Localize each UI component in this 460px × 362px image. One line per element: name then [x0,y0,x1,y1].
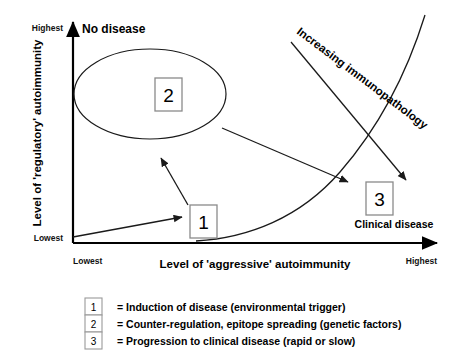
legend-item-text: = Progression to clinical disease (rapid… [117,335,355,347]
y-axis-high-tick: Highest [32,23,63,33]
legend: 1 = Induction of disease (environmental … [85,298,401,349]
no-disease-label: No disease [82,22,146,36]
legend-item: 3 = Progression to clinical disease (rap… [85,332,355,349]
x-axis-high-tick: Highest [406,256,437,266]
legend-item-text: = Counter-regulation, epitope spreading … [117,318,401,330]
no-disease-ellipse [74,49,226,139]
marker-box-3-label: 3 [374,189,385,210]
legend-item-number: 1 [91,302,97,313]
x-axis-low-tick: Lowest [73,256,102,266]
ellipse-to-box3-arrow [222,128,348,182]
clinical-disease-label: Clinical disease [355,218,434,230]
x-axis-title: Level of 'aggressive' autoimmunity [160,258,351,270]
legend-item: 2 = Counter-regulation, epitope spreadin… [85,315,401,332]
legend-item-text: = Induction of disease (environmental tr… [117,301,345,313]
marker-box-1: 1 [190,205,217,238]
marker-box-1-label: 1 [198,212,209,233]
origin-to-box1-arrow [73,217,182,237]
marker-box-3: 3 [366,182,393,215]
legend-item: 1 = Induction of disease (environmental … [85,298,345,315]
legend-item-number: 3 [91,336,97,347]
autoimmunity-diagram: Highest Lowest Lowest Highest Level of '… [0,0,460,362]
increasing-immunopathology-label: Increasing immunopathology [295,25,431,131]
marker-box-2: 2 [155,78,182,111]
y-axis-low-tick: Lowest [34,233,63,243]
marker-box-2-label: 2 [163,85,174,106]
legend-item-number: 2 [91,319,97,330]
box1-to-ellipse-arrow [161,158,188,205]
y-axis-title: Level of 'regulatory' autoimmunity [31,39,43,227]
